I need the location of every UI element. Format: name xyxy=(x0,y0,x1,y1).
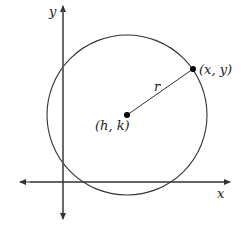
x-axis-label: x xyxy=(217,186,225,201)
center-label: (h, k) xyxy=(95,118,130,133)
circle-point xyxy=(190,66,196,72)
diagram-canvas: y x r (h, k) (x, y) xyxy=(0,0,242,231)
y-axis-label: y xyxy=(48,4,57,19)
point-label: (x, y) xyxy=(199,62,232,77)
circle-diagram: y x r (h, k) (x, y) xyxy=(0,0,242,231)
radius-label: r xyxy=(154,79,161,94)
